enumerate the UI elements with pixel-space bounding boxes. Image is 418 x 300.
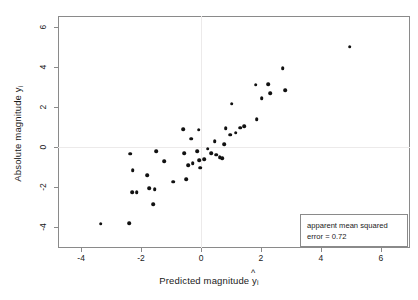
scatter-point <box>223 142 227 146</box>
scatter-point <box>213 139 217 143</box>
scatter-point <box>238 126 242 130</box>
scatter-point <box>128 152 132 156</box>
x-tick-label: 4 <box>319 253 324 263</box>
zero-vertical-reference-line <box>201 16 202 248</box>
y-axis-label: Absolute magnitude yi <box>12 64 23 204</box>
x-tick-label: 6 <box>379 253 384 263</box>
x-tick-mark <box>81 248 82 252</box>
scatter-point <box>197 128 201 132</box>
y-symbol-subscript: i <box>17 86 24 88</box>
scatter-point <box>99 222 103 226</box>
scatter-point <box>151 203 155 207</box>
x-tick-label: -4 <box>77 253 85 263</box>
x-tick-mark <box>381 248 382 252</box>
scatter-point <box>230 102 234 106</box>
scatter-point <box>145 173 149 177</box>
x-tick-mark <box>201 248 202 252</box>
x-tick-mark <box>141 248 142 252</box>
scatter-point <box>197 158 201 162</box>
x-tick-mark <box>261 248 262 252</box>
y-tick-label: 2 <box>38 100 48 114</box>
scatter-point <box>268 91 272 95</box>
scatter-point <box>242 124 246 128</box>
scatter-point <box>172 180 176 184</box>
x-symbol-subscript: i <box>257 279 259 286</box>
scatter-point <box>260 97 264 101</box>
scatter-point <box>131 168 135 172</box>
zero-horizontal-reference-line <box>58 147 410 148</box>
legend-line-1: apparent mean squared <box>307 221 388 230</box>
scatter-point <box>266 82 270 86</box>
hat-icon: ^ <box>251 269 255 278</box>
scatter-point <box>196 150 200 154</box>
y-tick-label: -4 <box>38 220 48 234</box>
y-tick-mark <box>54 227 58 228</box>
y-tick-mark <box>54 27 58 28</box>
scatter-point <box>202 158 206 162</box>
scatter-point <box>224 127 228 131</box>
legend-line-2: error = 0.72 <box>307 232 346 241</box>
y-axis-label-text: Absolute magnitude <box>12 95 23 182</box>
scatter-point <box>220 157 224 161</box>
y-tick-label: 6 <box>38 20 48 34</box>
x-tick-label: 0 <box>199 253 204 263</box>
scatter-point <box>184 178 188 182</box>
scatter-point <box>209 151 213 155</box>
y-tick-mark <box>54 187 58 188</box>
legend-text: apparent mean squared error = 0.72 <box>307 221 404 242</box>
scatter-point <box>254 83 258 87</box>
scatter-point <box>130 190 134 194</box>
scatter-point <box>199 166 203 170</box>
scatter-point <box>187 164 191 168</box>
scatter-point <box>283 88 287 92</box>
y-tick-label: 0 <box>38 140 48 154</box>
scatter-point <box>234 131 238 135</box>
scatter-point <box>135 191 139 195</box>
scatter-point <box>127 221 131 225</box>
x-tick-label: 2 <box>259 253 264 263</box>
x-axis-label-symbol: ^y <box>249 275 257 286</box>
scatter-point <box>148 187 152 191</box>
scatter-point <box>190 137 194 141</box>
y-tick-mark <box>54 67 58 68</box>
x-axis-label: Predicted magnitude ^yi <box>0 275 418 286</box>
scatter-point <box>154 149 158 153</box>
scatter-point <box>163 159 167 163</box>
x-axis-label-text: Predicted magnitude <box>159 275 249 286</box>
scatter-plot-figure: -4-20246 -4-20246 apparent mean squared … <box>0 0 418 300</box>
scatter-point <box>182 151 186 155</box>
scatter-point <box>281 66 285 70</box>
y-symbol-y: y <box>12 87 23 95</box>
x-tick-label: -2 <box>137 253 145 263</box>
x-tick-mark <box>321 248 322 252</box>
y-tick-label: -2 <box>38 180 48 194</box>
scatter-point <box>206 147 210 151</box>
y-tick-label: 4 <box>38 60 48 74</box>
scatter-point <box>191 161 195 165</box>
scatter-point <box>181 128 185 132</box>
scatter-point <box>229 133 233 137</box>
legend-box: apparent mean squared error = 0.72 <box>300 214 408 247</box>
y-tick-mark <box>54 107 58 108</box>
scatter-point <box>153 187 157 191</box>
y-tick-mark <box>54 147 58 148</box>
scatter-point <box>255 117 259 121</box>
scatter-point <box>348 45 352 49</box>
